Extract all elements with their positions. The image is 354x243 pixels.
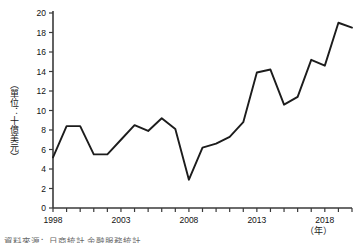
y-tick-label: 20 (37, 8, 47, 18)
y-tick-label: 6 (41, 145, 46, 155)
y-tick-label: 10 (37, 106, 47, 116)
x-tick-label: 2013 (247, 215, 266, 225)
x-tick-label: 2008 (179, 215, 198, 225)
x-tick-label: 2003 (111, 215, 130, 225)
y-tick-label: 2 (41, 184, 46, 194)
y-tick-label: 12 (37, 86, 47, 96)
y-tick-label: 0 (41, 203, 46, 213)
source-note: 資料來源：日商統計 金融服務統計 (4, 234, 141, 243)
y-tick-label: 16 (37, 47, 47, 57)
x-axis-ticks: 19982003200820132018 (44, 208, 352, 225)
y-axis-ticks: 02468101214161820 (37, 8, 53, 213)
line-chart-plot: 02468101214161820 19982003200820132018 (0, 0, 354, 243)
y-tick-label: 14 (37, 67, 47, 77)
data-series-line (53, 23, 352, 180)
x-axis-label: （年） (305, 224, 332, 237)
chart-figure: （單位：十億美元） 02468101214161820 199820032008… (0, 0, 354, 243)
y-tick-label: 18 (37, 28, 47, 38)
x-tick-label: 1998 (44, 215, 63, 225)
y-tick-label: 4 (41, 164, 46, 174)
y-tick-label: 8 (41, 125, 46, 135)
